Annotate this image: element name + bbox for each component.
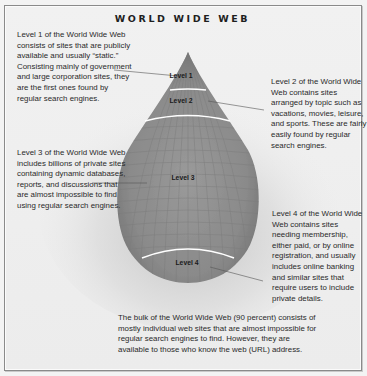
level-1-label: Level 1 — [161, 72, 201, 79]
level-1-description: Level 1 of the World Wide Web consists o… — [17, 30, 132, 104]
level-3-label: Level 3 — [163, 174, 203, 181]
level-3-description: Level 3 of the World Wide Web includes b… — [17, 148, 127, 212]
footer-note: The bulk of the World Wide Web (90 perce… — [118, 313, 318, 355]
level-4-label: Level 4 — [167, 259, 207, 266]
level-4-description: Level 4 of the World Wide Web contains s… — [272, 209, 367, 304]
level-2-label: Level 2 — [161, 97, 201, 104]
level-2-description: Level 2 of the World Wide Web contains s… — [271, 77, 367, 151]
